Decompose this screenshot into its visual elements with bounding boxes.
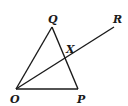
label-q: Q — [48, 13, 58, 26]
label-x: X — [65, 43, 75, 56]
geometry-diagram: Q R X O P — [0, 0, 128, 106]
ray-or — [16, 27, 114, 89]
label-o: O — [10, 93, 20, 106]
segment-oq — [16, 27, 52, 89]
label-r: R — [112, 13, 122, 26]
label-p: P — [76, 93, 86, 106]
